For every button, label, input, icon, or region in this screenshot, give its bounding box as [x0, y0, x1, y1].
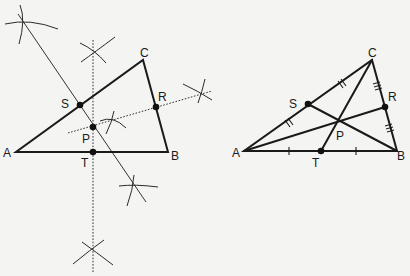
triangle-abc-right	[244, 60, 397, 151]
perp-bisector-bc	[68, 91, 212, 133]
label-r-right: R	[388, 90, 397, 104]
label-a-right: A	[232, 146, 240, 160]
point-s-left	[77, 102, 84, 109]
point-r-left	[153, 104, 160, 111]
triangle-abc-left	[16, 60, 168, 152]
point-t-left	[90, 149, 97, 156]
left-figure: A B C S R P T	[3, 5, 212, 272]
point-r-right	[382, 104, 389, 111]
label-s-left: S	[61, 97, 69, 111]
label-p-right: P	[336, 129, 344, 143]
label-b-right: B	[397, 149, 405, 163]
label-a-left: A	[3, 146, 11, 160]
label-r-left: R	[158, 90, 167, 104]
right-figure: A B C S R P T	[232, 46, 405, 170]
compass-arcs	[5, 5, 212, 265]
median-c	[321, 60, 372, 151]
label-t-left: T	[81, 156, 89, 170]
geometry-diagram: A B C S R P T	[0, 0, 410, 276]
point-p-left	[90, 124, 97, 131]
median-a	[244, 107, 385, 151]
label-c-right: C	[368, 46, 377, 60]
label-c-left: C	[140, 46, 149, 60]
label-s-right: S	[289, 97, 297, 111]
label-b-left: B	[171, 149, 179, 163]
point-t-right	[318, 148, 325, 155]
point-s-right	[305, 101, 312, 108]
label-p-left: P	[82, 132, 90, 146]
perp-bisector-ac	[18, 14, 146, 202]
label-t-right: T	[312, 156, 320, 170]
